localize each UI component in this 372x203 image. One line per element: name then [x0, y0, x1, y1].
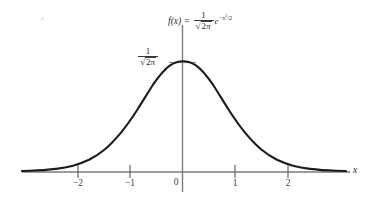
formula-coefficient-numerator: 1: [194, 11, 214, 21]
peak-value-label: 1√2π: [138, 47, 158, 68]
peak-fraction: 1√2π: [138, 47, 158, 68]
peak-numerator: 1: [138, 47, 158, 57]
formula-exponent-divisor: /2: [227, 15, 232, 21]
x-axis-label: x: [353, 166, 357, 176]
formula-lhs: f(x): [168, 16, 181, 26]
formula-exponent: −x2/2: [218, 15, 232, 21]
normal-distribution-figure: f(x)=1√2πe−x2/2 1√2π −2 −1 0 1 2 x: [0, 0, 372, 203]
peak-radicand: 2π: [145, 57, 156, 67]
sqrt-icon: √2π: [196, 21, 212, 31]
x-tick-label-1: 1: [226, 178, 244, 188]
formula-equals: =: [184, 16, 189, 26]
x-tick-label--2: −2: [69, 178, 87, 188]
title-formula: f(x)=1√2πe−x2/2: [168, 11, 232, 32]
formula-exponential: e−x2/2: [215, 16, 233, 26]
x-tick-label-2: 2: [279, 178, 297, 188]
density-curve: [22, 61, 346, 171]
formula-coefficient-denominator: √2π: [194, 21, 214, 31]
formula-radicand: 2π: [201, 21, 212, 31]
formula-coefficient: 1√2π: [194, 11, 214, 32]
sqrt-icon: √2π: [140, 57, 156, 67]
x-tick-label-0: 0: [167, 177, 185, 187]
peak-denominator: √2π: [138, 57, 158, 67]
x-tick-label--1: −1: [121, 178, 139, 188]
